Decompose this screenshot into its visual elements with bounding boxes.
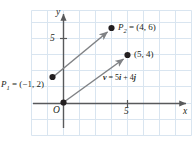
point-label-p2: P2 = (4, 6)	[118, 23, 156, 34]
unit-vector-j-symbol: j	[134, 73, 136, 82]
plotted-points	[49, 25, 130, 106]
x-axis-label: x	[183, 107, 187, 117]
point-p2	[108, 25, 114, 31]
point-5-4	[124, 52, 130, 58]
point-label-5-4: (5, 4)	[134, 50, 154, 59]
y-axis-tick-label-5: 5	[50, 34, 55, 44]
vector-component-label: v = 5i + 4j	[103, 74, 136, 82]
origin-label: O	[53, 106, 60, 116]
point-origin	[60, 99, 66, 105]
p1-coordinates: = (−1, 2)	[10, 79, 44, 89]
y-axis-label: y	[56, 8, 60, 18]
point-label-p1: P1 = (−1, 2)	[1, 80, 44, 91]
point-p1	[49, 74, 55, 80]
coordinate-plane-graphic	[0, 0, 195, 144]
vector-diagram-figure: 5 5 y x O P2 = (4, 6) P1 = (−1, 2) (5, 4…	[0, 0, 195, 144]
vector-equals-5: = 5	[107, 73, 120, 82]
vector-plus-4: + 4	[121, 73, 134, 82]
x-axis-tick-label-5: 5	[124, 107, 129, 117]
p2-coordinates: = (4, 6)	[127, 22, 156, 32]
